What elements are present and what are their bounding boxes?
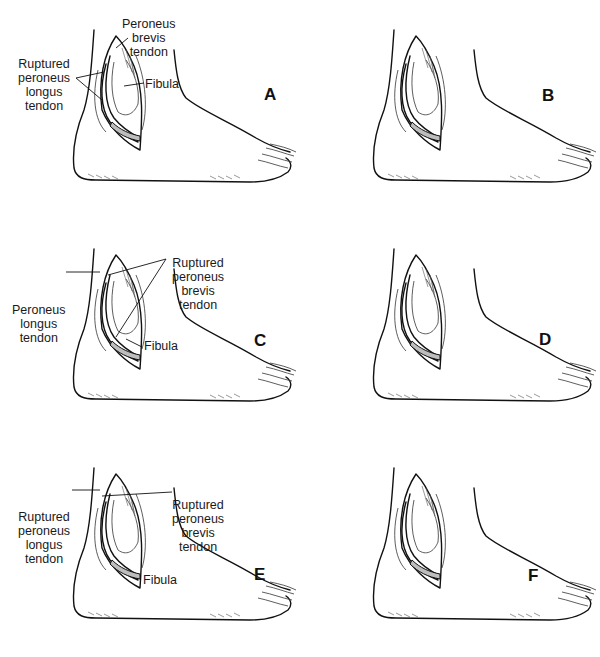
panel-letter: F	[528, 566, 538, 586]
label-ruptured-peroneus-brevis-tendon: Ruptured peroneus brevis tendon	[172, 498, 224, 554]
panel-letter: D	[539, 330, 551, 350]
panel-letter: E	[254, 565, 265, 585]
label-fibula: Fibula	[145, 77, 179, 91]
panel-letter: A	[264, 85, 276, 105]
label-peroneus-longus-tendon: Peroneus longus tendon	[12, 303, 66, 345]
panel-b: B	[300, 0, 600, 219]
panel-f: F	[300, 438, 600, 657]
label-ruptured-peroneus-longus-tendon: Ruptured peroneus longus tendon	[18, 57, 70, 113]
panel-letter: B	[542, 86, 554, 106]
foot-illustration	[300, 438, 600, 657]
panel-d: D	[300, 219, 600, 438]
panel-e: Ruptured peroneus longus tendon Ruptured…	[0, 438, 300, 657]
label-fibula: Fibula	[144, 339, 178, 353]
label-ruptured-peroneus-brevis-tendon: Ruptured peroneus brevis tendon	[172, 256, 224, 312]
panel-a: Peroneus brevis tendon Ruptured peroneus…	[0, 0, 300, 219]
label-fibula: Fibula	[143, 573, 177, 587]
label-ruptured-peroneus-longus-tendon: Ruptured peroneus longus tendon	[18, 510, 70, 566]
label-peroneus-brevis-tendon: Peroneus brevis tendon	[122, 17, 176, 59]
panel-letter: C	[254, 331, 266, 351]
panel-c: Ruptured peroneus brevis tendon Peroneus…	[0, 219, 300, 438]
foot-illustration	[300, 0, 600, 219]
foot-illustration	[300, 219, 600, 438]
